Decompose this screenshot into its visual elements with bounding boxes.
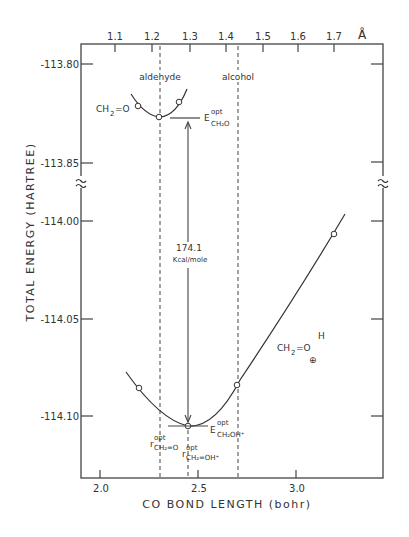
top-tick-label: 1.4: [218, 31, 234, 42]
data-point: [136, 385, 142, 391]
r-opt-ch2o-label: r opt CH₂=O: [150, 434, 179, 452]
x-tick-label: 2.0: [93, 483, 109, 494]
svg-text:CH: CH: [96, 104, 109, 114]
y-tick-label: -114.10: [40, 411, 79, 422]
svg-text:opt: opt: [211, 108, 223, 116]
svg-text:opt: opt: [186, 444, 198, 452]
svg-text:2: 2: [291, 349, 295, 357]
e-opt-ch2o-label: E opt CH₂O: [204, 108, 230, 128]
svg-text:E: E: [210, 425, 216, 435]
svg-text:2: 2: [110, 110, 114, 118]
alcohol-label: alcohol: [222, 72, 254, 82]
e-opt-ch2oh-label: E opt CH₂OH⁺: [210, 419, 245, 439]
energy-curve-chart: 1.1 1.2 1.3 1.4 1.5 1.6 1.7 Å 2.0 2.5 3.…: [0, 0, 409, 537]
aldehyde-label: aldehyde: [139, 72, 181, 82]
top-tick-label: 1.3: [182, 31, 198, 42]
angstrom-unit-label: Å: [358, 27, 367, 42]
svg-text:=O: =O: [115, 104, 130, 114]
data-point: [234, 382, 240, 388]
svg-text:CH₂=O: CH₂=O: [154, 444, 179, 452]
svg-text:E: E: [204, 113, 210, 123]
ch2oh-label: CH 2 =O H ⊕: [277, 331, 325, 365]
y-tick-label: -114.05: [40, 314, 79, 325]
svg-text:opt: opt: [154, 434, 166, 442]
y-tick-label: -113.85: [40, 158, 79, 169]
svg-text:⊕: ⊕: [309, 355, 317, 365]
top-tick-label: 1.1: [107, 31, 123, 42]
data-point: [176, 99, 182, 105]
svg-text:opt: opt: [217, 419, 229, 427]
data-point: [135, 103, 141, 109]
ch2o-label: CH 2 =O: [96, 104, 130, 118]
energy-gap-unit: Kcal/mole: [173, 256, 207, 264]
svg-text:H: H: [318, 331, 325, 341]
top-tick-label: 1.7: [326, 31, 342, 42]
svg-text:CH₂OH⁺: CH₂OH⁺: [217, 431, 245, 439]
top-tick-label: 1.2: [144, 31, 160, 42]
right-axis: [371, 64, 388, 416]
x-axis-label: CO BOND LENGTH (bohr): [142, 498, 311, 511]
y-axis-label: TOTAL ENERGY (HARTREE): [24, 143, 37, 323]
top-axis: 1.1 1.2 1.3 1.4 1.5 1.6 1.7 Å: [107, 27, 367, 52]
svg-text:CH₂=OH⁺: CH₂=OH⁺: [186, 454, 220, 462]
bottom-axis: 2.0 2.5 3.0 CO BOND LENGTH (bohr): [93, 470, 312, 511]
top-tick-label: 1.5: [255, 31, 271, 42]
ch2oh-curve: [126, 214, 345, 426]
svg-text:=O: =O: [296, 343, 311, 353]
energy-gap-value: 174.1: [176, 243, 202, 253]
data-point: [156, 114, 162, 120]
x-tick-label: 3.0: [289, 483, 305, 494]
y-tick-label: -113.80: [40, 59, 79, 70]
y-tick-label: -114.00: [40, 216, 79, 227]
svg-text:CH₂O: CH₂O: [211, 120, 230, 128]
svg-text:CH: CH: [277, 343, 290, 353]
data-point: [331, 231, 337, 237]
top-tick-label: 1.6: [290, 31, 306, 42]
x-tick-label: 2.5: [191, 483, 207, 494]
left-axis: -113.80 -113.85 -114.00 -114.05 -114.10 …: [24, 59, 93, 422]
